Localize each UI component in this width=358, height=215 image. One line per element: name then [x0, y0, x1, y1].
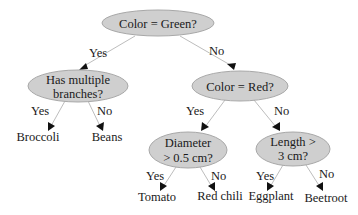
decision-tree-diagram: Yes No Yes No Yes No Yes No Yes No Color… [0, 0, 358, 215]
edge-label-branches-yes: Yes [31, 104, 49, 118]
leaf-red-chili: Red chili [197, 189, 243, 203]
leaf-broccoli: Broccoli [16, 130, 60, 144]
leaf-eggplant: Eggplant [248, 189, 294, 203]
edge-label-root-yes: Yes [89, 46, 107, 60]
node-label: Color = Green? [119, 17, 197, 31]
node-has-multiple-branches: Has multiple branches? [28, 70, 128, 102]
node-color-red: Color = Red? [192, 71, 288, 101]
edge-diameter-yes [163, 167, 176, 187]
edge-label-length-no: No [319, 167, 334, 181]
node-label-line1: Has multiple [46, 73, 111, 87]
edge-red-yes [205, 100, 225, 127]
edge-label-branches-no: No [97, 104, 112, 118]
node-label-line2: 3 cm? [278, 149, 309, 163]
edge-branches-yes [51, 101, 65, 126]
node-color-green: Color = Green? [102, 10, 214, 36]
arrow-head-icon [227, 63, 236, 70]
node-label-line2: branches? [53, 87, 103, 101]
node-label-line1: Diameter [165, 136, 212, 150]
leaf-beetroot: Beetroot [304, 191, 348, 205]
leaf-tomato: Tomato [138, 190, 176, 204]
edge-label-root-no: No [209, 44, 224, 58]
node-diameter: Diameter > 0.5 cm? [149, 132, 227, 168]
node-label-line1: Length > [270, 135, 316, 149]
node-label-line2: > 0.5 cm? [163, 151, 213, 165]
node-label: Color = Red? [206, 80, 274, 94]
node-length: Length > 3 cm? [256, 132, 330, 166]
edge-label-red-yes: Yes [186, 104, 204, 118]
edge-red-no [254, 100, 276, 127]
edge-label-red-no: No [274, 104, 289, 118]
edge-length-no [306, 165, 320, 187]
leaf-beans: Beans [92, 130, 123, 144]
edge-label-diameter-yes: Yes [146, 169, 164, 183]
edge-label-length-yes: Yes [256, 169, 274, 183]
arrow-head-icon [316, 182, 323, 191]
edge-label-diameter-no: No [211, 169, 226, 183]
